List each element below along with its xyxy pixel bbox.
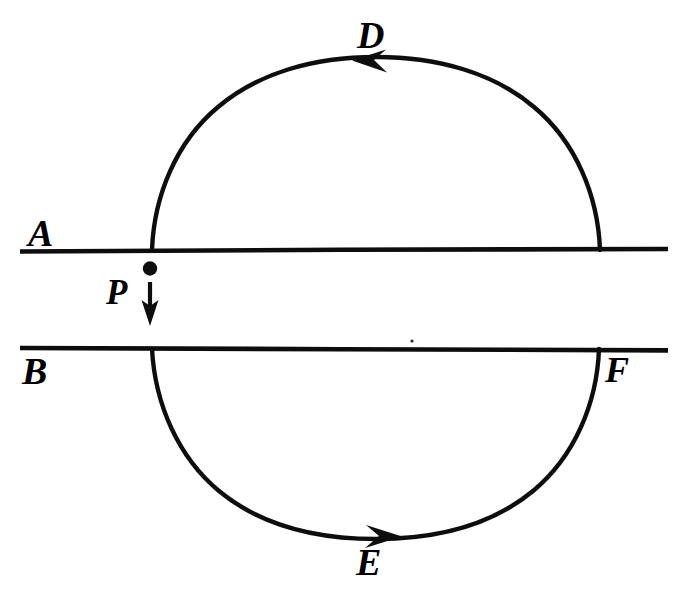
label-B: B — [22, 352, 47, 390]
label-F: F — [605, 352, 629, 388]
diagram-svg — [0, 0, 681, 595]
horizontal-line-A — [20, 249, 668, 252]
upper-arc-ADF — [152, 57, 600, 250]
label-E: E — [356, 543, 381, 581]
label-P: P — [106, 275, 127, 310]
horizontal-line-B — [20, 348, 668, 350]
lower-arc-BEF — [152, 349, 599, 539]
label-A: A — [28, 214, 53, 252]
paper-speck-artifact — [410, 339, 413, 342]
point-P-dot — [143, 261, 157, 275]
label-D: D — [357, 16, 384, 54]
downward-velocity-arrow — [142, 282, 159, 326]
figure-canvas: A B D E F P — [0, 0, 681, 595]
